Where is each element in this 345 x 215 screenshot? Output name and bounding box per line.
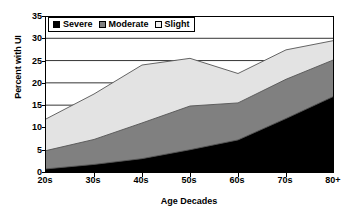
y-axis-tick-label: 35 [18, 12, 42, 21]
y-axis-tick-mark [42, 150, 46, 151]
y-axis-tick-mark [42, 83, 46, 84]
legend-entry: Severe [53, 20, 93, 29]
legend-label: Severe [63, 20, 93, 29]
x-axis-tick-labels: 20s30s40s50s60s70s80+ [45, 176, 333, 190]
y-axis-tick-mark [42, 16, 46, 17]
x-axis-tick-label: 70s [265, 176, 305, 185]
x-axis-tick-label: 40s [121, 176, 161, 185]
y-axis-tick-mark [42, 38, 46, 39]
y-axis-tick-mark [42, 105, 46, 106]
y-axis-tick-mark [42, 61, 46, 62]
legend-entry: Moderate [99, 20, 149, 29]
legend-swatch-icon [155, 21, 162, 28]
y-axis-tick-labels: 05101520253035 [18, 16, 42, 172]
chart-legend: SevereModerateSlight [48, 17, 195, 32]
x-axis-tick-label: 30s [73, 176, 113, 185]
legend-swatch-icon [99, 21, 106, 28]
area-chart: Percent with UI 05101520253035 SevereMod… [0, 0, 345, 215]
x-axis-title: Age Decades [45, 196, 333, 206]
plot-area [45, 16, 334, 173]
x-axis-tick-label: 80+ [313, 176, 345, 185]
legend-swatch-icon [53, 21, 60, 28]
legend-entry: Slight [155, 20, 190, 29]
x-axis-tick-label: 20s [25, 176, 65, 185]
y-axis-tick-label: 25 [18, 56, 42, 65]
y-axis-tick-mark [42, 127, 46, 128]
y-axis-tick-label: 5 [18, 145, 42, 154]
y-axis-tick-label: 10 [18, 123, 42, 132]
y-axis-tick-label: 30 [18, 34, 42, 43]
x-axis-tick-label: 60s [217, 176, 257, 185]
y-axis-tick-label: 15 [18, 101, 42, 110]
legend-label: Slight [165, 20, 190, 29]
legend-label: Moderate [109, 20, 149, 29]
plot-svg [46, 16, 334, 172]
x-axis-tick-label: 50s [169, 176, 209, 185]
y-axis-tick-mark [42, 172, 46, 173]
y-axis-tick-label: 20 [18, 78, 42, 87]
